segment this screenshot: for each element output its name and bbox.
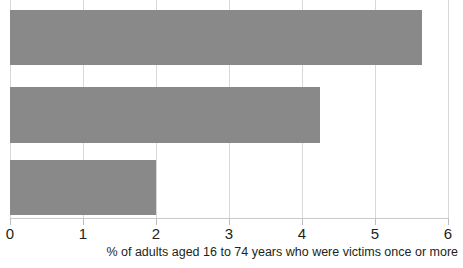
bar-chart: y 0123456 % of adults aged 16 to 74 year… bbox=[0, 0, 463, 268]
tick-label-1: 1 bbox=[79, 225, 87, 242]
bar-2 bbox=[10, 160, 156, 215]
bar-row bbox=[0, 87, 463, 143]
x-axis-title: % of adults aged 16 to 74 years who were… bbox=[0, 245, 458, 259]
tick-label-4: 4 bbox=[298, 225, 306, 242]
bar-0 bbox=[10, 10, 422, 65]
bar-row bbox=[0, 10, 463, 65]
tick-label-5: 5 bbox=[371, 225, 379, 242]
x-axis-ticks: 0123456 bbox=[0, 219, 463, 243]
tick-label-3: 3 bbox=[225, 225, 233, 242]
bar-1 bbox=[10, 87, 320, 143]
tick-label-2: 2 bbox=[152, 225, 160, 242]
bar-row bbox=[0, 160, 463, 215]
tick-label-0: 0 bbox=[6, 225, 14, 242]
plot-area: y bbox=[0, 0, 463, 219]
tick-label-6: 6 bbox=[444, 225, 452, 242]
